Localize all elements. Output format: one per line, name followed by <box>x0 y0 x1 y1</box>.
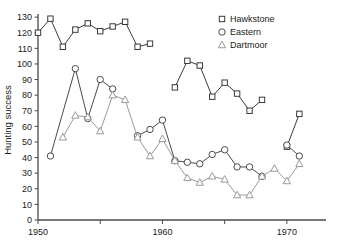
data-point-eastern <box>234 164 240 170</box>
series-line-hawkstone <box>38 19 150 47</box>
data-point-hawkstone <box>35 30 40 35</box>
x-tick-label: 1950 <box>28 227 48 237</box>
data-point-dartmoor <box>59 133 66 140</box>
y-tick-label: 0 <box>27 215 32 225</box>
data-point-eastern <box>97 76 103 82</box>
series-line-dartmoor <box>63 95 299 195</box>
data-point-dartmoor <box>296 160 303 167</box>
y-axis-title: Hunting success <box>2 85 13 155</box>
y-tick-label: 30 <box>22 168 32 178</box>
data-point-hawkstone <box>98 28 103 33</box>
data-point-dartmoor <box>72 112 79 119</box>
series-dartmoor <box>59 91 303 197</box>
y-tick-label: 70 <box>22 106 32 116</box>
y-tick-label: 40 <box>22 153 32 163</box>
y-tick-label: 60 <box>22 122 32 132</box>
legend-item-hawkstone[interactable]: Hawkstone <box>219 14 274 24</box>
data-point-dartmoor <box>246 191 253 198</box>
x-axis-ticks: 195019601970 <box>28 220 297 237</box>
data-point-eastern <box>159 117 165 123</box>
data-point-eastern <box>284 142 290 148</box>
hunting-success-line-chart: 0102030405060708090100110120130 19501960… <box>0 0 338 247</box>
data-point-dartmoor <box>209 173 216 180</box>
data-point-hawkstone <box>60 44 65 49</box>
data-point-hawkstone <box>185 58 190 63</box>
data-point-eastern <box>246 164 252 170</box>
data-point-eastern <box>147 126 153 132</box>
data-point-hawkstone <box>135 44 140 49</box>
data-point-hawkstone <box>48 16 53 21</box>
data-point-dartmoor <box>109 91 116 98</box>
y-tick-label: 80 <box>22 90 32 100</box>
data-point-hawkstone <box>247 108 252 113</box>
data-point-hawkstone <box>210 94 215 99</box>
data-point-eastern <box>47 153 53 159</box>
y-axis-ticks: 0102030405060708090100110120130 <box>17 12 38 225</box>
data-point-hawkstone <box>122 19 127 24</box>
data-point-eastern <box>197 161 203 167</box>
data-point-eastern <box>184 159 190 165</box>
data-point-hawkstone <box>234 91 239 96</box>
data-point-hawkstone <box>172 85 177 90</box>
y-tick-label: 50 <box>22 137 32 147</box>
y-tick-label: 10 <box>22 200 32 210</box>
legend-marker-circle-icon <box>219 29 225 35</box>
series-line-hawkstone <box>175 61 262 111</box>
data-point-hawkstone <box>197 63 202 68</box>
y-tick-label: 130 <box>17 12 32 22</box>
series-line-hawkstone <box>287 114 299 147</box>
legend-label-hawkstone: Hawkstone <box>230 14 275 24</box>
y-tick-label: 90 <box>22 75 32 85</box>
data-point-hawkstone <box>147 41 152 46</box>
data-point-hawkstone <box>297 111 302 116</box>
data-point-eastern <box>296 153 302 159</box>
x-tick-label: 1970 <box>277 227 297 237</box>
x-tick-label: 1960 <box>152 227 172 237</box>
y-tick-label: 100 <box>17 59 32 69</box>
data-point-hawkstone <box>259 97 264 102</box>
data-point-dartmoor <box>159 135 166 142</box>
series-line-eastern <box>50 69 112 156</box>
legend-label-eastern: Eastern <box>230 27 261 37</box>
chart-legend: HawkstoneEasternDartmoor <box>218 14 274 50</box>
legend-marker-square-icon <box>219 16 224 21</box>
legend-item-dartmoor[interactable]: Dartmoor <box>218 40 267 50</box>
y-tick-label: 20 <box>22 184 32 194</box>
data-point-eastern <box>221 147 227 153</box>
data-point-hawkstone <box>73 27 78 32</box>
data-point-eastern <box>209 151 215 157</box>
chart-container: 0102030405060708090100110120130 19501960… <box>0 0 338 247</box>
y-tick-label: 110 <box>18 44 32 54</box>
data-point-eastern <box>72 65 78 71</box>
series-hawkstone <box>35 16 302 149</box>
data-point-dartmoor <box>271 165 278 172</box>
legend-label-dartmoor: Dartmoor <box>230 40 268 50</box>
legend-item-eastern[interactable]: Eastern <box>219 27 261 37</box>
data-point-hawkstone <box>85 21 90 26</box>
data-point-hawkstone <box>222 80 227 85</box>
data-point-hawkstone <box>110 24 115 29</box>
y-tick-label: 120 <box>17 28 32 38</box>
legend-marker-triangle-icon <box>218 41 225 48</box>
